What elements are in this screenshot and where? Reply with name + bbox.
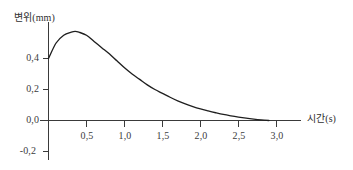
- x-tick-label-3: 2,0: [186, 131, 216, 141]
- x-tick-label-0: 0,5: [72, 131, 102, 141]
- displacement-time-chart: 변위(mm) 시간(s) 0,4 0,2 0,0 -0,2 0,5 1,0 1,…: [0, 0, 353, 170]
- x-axis: [40, 121, 301, 128]
- y-tick-label-0: 0,4: [5, 53, 39, 63]
- x-tick-label-2: 1,5: [148, 131, 178, 141]
- y-tick-label-2: 0,0: [5, 115, 39, 125]
- x-tick-label-1: 1,0: [110, 131, 140, 141]
- y-tick-label-3: -0,2: [2, 146, 36, 156]
- x-tick-label-5: 3,0: [262, 131, 292, 141]
- y-axis: [43, 22, 49, 160]
- x-tick-label-4: 2,5: [224, 131, 254, 141]
- x-axis-title: 시간(s): [307, 114, 336, 124]
- chart-plot-area: [0, 0, 353, 170]
- y-axis-title: 변위(mm): [14, 13, 55, 23]
- displacement-curve: [49, 31, 269, 120]
- y-tick-label-1: 0,2: [5, 84, 39, 94]
